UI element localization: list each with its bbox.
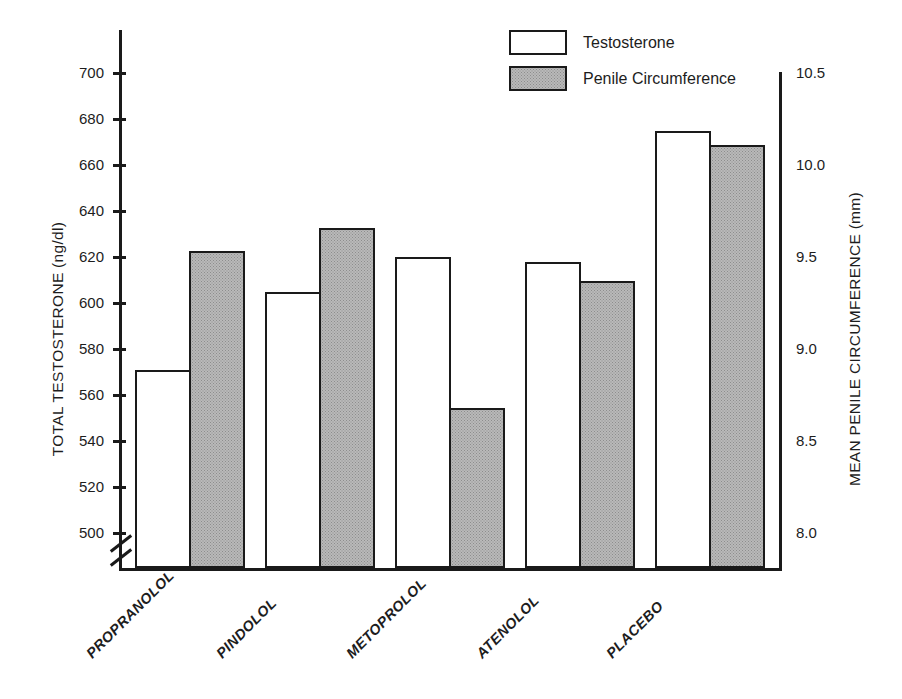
- y-axis-left-tick-label: 620: [44, 248, 104, 265]
- y-axis-left-tick: [113, 72, 126, 75]
- bar-testosterone-metoprolol: [395, 257, 451, 568]
- legend-swatch-testosterone: [509, 30, 567, 55]
- bar-penile-circumference-placebo: [709, 145, 765, 568]
- y-axis-left-tick-label: 640: [44, 202, 104, 219]
- y-axis-right-tick-label: 10.5: [796, 64, 866, 81]
- y-axis-left-tick: [113, 486, 126, 489]
- y-axis-left-tick-label: 660: [44, 156, 104, 173]
- legend-item-testosterone: Testosterone: [509, 30, 736, 55]
- legend-item-penile-circumference: Penile Circumference: [509, 66, 736, 91]
- y-axis-left-tick-label: 600: [44, 294, 104, 311]
- bar-testosterone-placebo: [655, 131, 711, 569]
- plot-area: 700680660640620600580560540520500 10.510…: [0, 0, 902, 699]
- y-axis-left-tick-label: 520: [44, 478, 104, 495]
- y-axis-left-tick: [113, 164, 126, 167]
- x-axis-label-propranolol: PROPRANOLOL: [83, 567, 177, 661]
- bar-penile-circumference-propranolol: [189, 251, 245, 568]
- y-axis-right-line: [779, 72, 782, 571]
- y-axis-right-tick-label: 10.0: [796, 156, 866, 173]
- x-axis-label-pindolol: PINDOLOL: [213, 595, 280, 662]
- y-axis-left-line: [119, 30, 122, 571]
- legend-label-testosterone: Testosterone: [583, 34, 675, 52]
- y-axis-left-tick-label: 560: [44, 386, 104, 403]
- y-axis-left-tick-label: 700: [44, 64, 104, 81]
- bar-testosterone-atenolol: [525, 262, 581, 568]
- y-axis-left-tick-label: 540: [44, 432, 104, 449]
- y-axis-left-tick-label: 580: [44, 340, 104, 357]
- legend-swatch-penile-circumference: [509, 66, 567, 91]
- y-axis-right-tick-label: 9.5: [796, 248, 866, 265]
- y-axis-left-tick: [113, 394, 126, 397]
- x-axis-label-placebo: PLACEBO: [603, 598, 666, 661]
- y-axis-right-tick-label: 8.0: [796, 524, 866, 541]
- y-axis-break-icon: [108, 536, 134, 570]
- y-axis-left-tick: [113, 256, 126, 259]
- bar-penile-circumference-pindolol: [319, 228, 375, 568]
- y-axis-left-tick: [113, 302, 126, 305]
- bar-penile-circumference-metoprolol: [449, 408, 505, 568]
- y-axis-left-tick-label: 500: [44, 524, 104, 541]
- bar-testosterone-pindolol: [265, 292, 321, 569]
- legend-label-penile-circumference: Penile Circumference: [583, 70, 736, 88]
- y-axis-right-tick-label: 8.5: [796, 432, 866, 449]
- bar-penile-circumference-atenolol: [579, 281, 635, 568]
- y-axis-left-tick: [113, 348, 126, 351]
- x-axis-line: [119, 568, 782, 571]
- y-axis-left-tick: [113, 118, 126, 121]
- y-axis-right-tick-label: 9.0: [796, 340, 866, 357]
- bar-chart: TOTAL TESTOSTERONE (ng/dl) MEAN PENILE C…: [0, 0, 902, 699]
- y-axis-left-tick: [113, 532, 126, 535]
- y-axis-left-tick: [113, 440, 126, 443]
- x-axis-label-metoprolol: METOPROLOL: [343, 575, 429, 661]
- y-axis-left-tick: [113, 210, 126, 213]
- y-axis-left-tick-label: 680: [44, 110, 104, 127]
- legend: Testosterone Penile Circumference: [509, 30, 736, 102]
- x-axis-label-atenolol: ATENOLOL: [473, 592, 542, 661]
- bar-testosterone-propranolol: [135, 370, 191, 568]
